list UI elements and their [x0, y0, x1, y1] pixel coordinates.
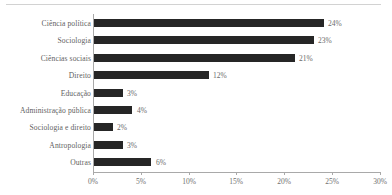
- bar: [94, 89, 123, 97]
- category-label: Sociologia e direito: [30, 123, 91, 132]
- bar-row: Outras 6%: [0, 154, 387, 171]
- bar-row: Administração pública 4%: [0, 101, 387, 118]
- x-tick-label: 10%: [174, 177, 204, 186]
- bar: [94, 36, 314, 44]
- bar: [94, 54, 295, 62]
- bar-row: Sociologia e direito 2%: [0, 119, 387, 136]
- x-tick-label: 0%: [78, 177, 108, 186]
- x-tick-label: 15%: [221, 177, 251, 186]
- x-tick-mark: [236, 172, 237, 175]
- category-label: Ciência política: [42, 18, 91, 27]
- x-tick-mark: [284, 172, 285, 175]
- bar-value-label: 3%: [127, 140, 137, 149]
- bar: [94, 106, 132, 114]
- bar: [94, 19, 324, 27]
- bar-row: Antropologia 3%: [0, 136, 387, 153]
- x-tick-mark: [93, 172, 94, 175]
- category-label: Direito: [69, 71, 91, 80]
- category-label: Educação: [61, 88, 91, 97]
- bar-value-label: 24%: [328, 18, 342, 27]
- bar-value-label: 3%: [127, 88, 137, 97]
- category-axis-line: [93, 172, 381, 173]
- x-tick-mark: [141, 172, 142, 175]
- bar-row: Ciências sociais 21%: [0, 49, 387, 66]
- bar: [94, 123, 113, 131]
- x-tick-label: 30%: [365, 177, 392, 186]
- bar-value-label: 6%: [156, 158, 166, 167]
- bar-row: Ciência política 24%: [0, 14, 387, 31]
- x-tick-label: 25%: [317, 177, 347, 186]
- x-tick-mark: [332, 172, 333, 175]
- x-tick-mark: [189, 172, 190, 175]
- bar: [94, 158, 151, 166]
- category-label: Outras: [70, 158, 91, 167]
- category-label: Ciências sociais: [41, 53, 91, 62]
- bar-value-label: 23%: [318, 36, 332, 45]
- x-tick-label: 5%: [126, 177, 156, 186]
- bar: [94, 71, 209, 79]
- bar-row: Direito 12%: [0, 67, 387, 84]
- bar-value-label: 21%: [299, 53, 313, 62]
- bar-value-label: 2%: [117, 123, 127, 132]
- x-tick-mark: [380, 172, 381, 175]
- bar-value-label: 4%: [137, 105, 147, 114]
- x-tick-label: 20%: [269, 177, 299, 186]
- category-label: Administração pública: [20, 105, 91, 114]
- category-label: Sociologia: [58, 36, 91, 45]
- bar-value-label: 12%: [213, 71, 227, 80]
- category-label: Antropologia: [49, 140, 91, 149]
- bar: [94, 141, 123, 149]
- bar-row: Sociologia 23%: [0, 32, 387, 49]
- bar-row: Educação 3%: [0, 84, 387, 101]
